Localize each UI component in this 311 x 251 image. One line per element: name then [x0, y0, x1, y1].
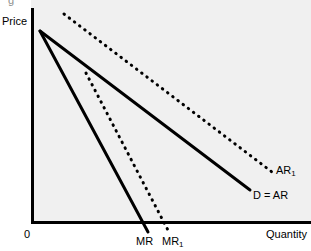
economics-diagram-figure: g Price 0 Quantity MR MR1 AR1 D = AR	[0, 0, 311, 251]
curve-label-ar1-base: AR	[276, 164, 291, 176]
plot-canvas	[0, 0, 311, 251]
y-axis-label: Price	[2, 15, 27, 27]
curve-label-ar1-subscript: 1	[291, 169, 295, 178]
curve-label-d-ar: D = AR	[253, 189, 288, 201]
curve-label-mr1-base: MR	[162, 235, 179, 247]
curve-label-mr1-subscript: 1	[179, 240, 183, 249]
curve-label-mr1: MR1	[162, 235, 184, 249]
curve-label-mr: MR	[136, 235, 153, 247]
x-axis-label: Quantity	[266, 228, 307, 240]
curve-label-ar1: AR1	[276, 164, 296, 178]
origin-label: 0	[24, 228, 30, 240]
